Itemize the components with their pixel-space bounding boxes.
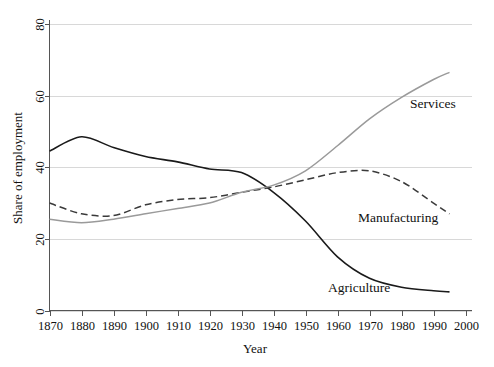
- x-tick-label-1890: 1890: [102, 319, 127, 333]
- y-axis-title: Share of employment: [10, 112, 25, 224]
- x-tick-label-1930: 1930: [230, 319, 255, 333]
- y-tick-label-80: 80: [33, 18, 47, 31]
- x-tick-label-1910: 1910: [166, 319, 191, 333]
- series-label-manufacturing: Manufacturing: [358, 210, 438, 225]
- y-axis-tick-labels: 020406080: [33, 18, 47, 314]
- x-tick-label-1880: 1880: [70, 319, 95, 333]
- x-tick-label-2000: 2000: [454, 319, 479, 333]
- x-axis-tick-labels: 1870188018901900191019201930194019501960…: [38, 319, 479, 333]
- series-group: [50, 72, 450, 292]
- series-label-agriculture: Agriculture: [328, 280, 390, 295]
- y-tick-label-0: 0: [33, 308, 47, 314]
- x-tick-label-1900: 1900: [134, 319, 159, 333]
- x-axis-title: Year: [243, 341, 268, 356]
- x-tick-label-1960: 1960: [326, 319, 351, 333]
- employment-share-line-chart: 020406080 187018801890190019101920193019…: [0, 0, 494, 367]
- y-tick-label-20: 20: [33, 233, 47, 246]
- series-label-services: Services: [410, 96, 456, 111]
- x-tick-label-1990: 1990: [422, 319, 447, 333]
- x-tick-label-1870: 1870: [38, 319, 63, 333]
- x-tick-label-1970: 1970: [358, 319, 383, 333]
- gridlines: [50, 25, 473, 312]
- x-tick-label-1980: 1980: [390, 319, 415, 333]
- x-tick-label-1940: 1940: [262, 319, 287, 333]
- x-tick-label-1950: 1950: [294, 319, 319, 333]
- y-tick-label-60: 60: [33, 90, 47, 103]
- chart-container: 020406080 187018801890190019101920193019…: [0, 0, 494, 367]
- series-line-services: [50, 72, 450, 222]
- x-tick-label-1920: 1920: [198, 319, 223, 333]
- y-tick-label-40: 40: [33, 161, 47, 174]
